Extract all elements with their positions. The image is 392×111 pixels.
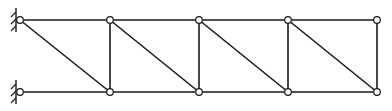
joint-node	[17, 17, 24, 24]
joint-node	[107, 89, 114, 96]
joint-node	[107, 17, 114, 24]
wall-hatch	[11, 26, 16, 31]
wall-hatch	[11, 91, 16, 96]
pin-wall-support	[11, 8, 16, 32]
wall-hatch	[11, 12, 16, 17]
truss-diagram	[0, 0, 392, 111]
wall-hatch	[11, 98, 16, 103]
joint-node	[17, 89, 24, 96]
wall-supports	[11, 8, 16, 104]
joint-node	[196, 17, 203, 24]
joint-node	[374, 89, 381, 96]
joint-node	[285, 17, 292, 24]
wall-hatch	[11, 84, 16, 89]
diagonal-member	[199, 20, 288, 92]
joint-node	[285, 89, 292, 96]
diagonal-member	[288, 20, 377, 92]
truss-members	[20, 20, 377, 92]
diagonal-member	[110, 20, 199, 92]
diagonal-member	[20, 20, 110, 92]
pin-wall-support	[11, 80, 16, 104]
wall-hatch	[11, 19, 16, 24]
joint-node	[374, 17, 381, 24]
joint-node	[196, 89, 203, 96]
